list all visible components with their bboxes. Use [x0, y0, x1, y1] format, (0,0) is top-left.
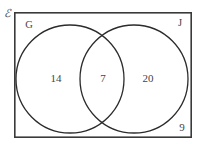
set-g-circle — [16, 25, 124, 133]
region-count-intersection: 7 — [100, 72, 106, 84]
region-count-outside: 9 — [179, 121, 185, 133]
region-count-g-only: 14 — [51, 72, 63, 84]
set-j-label: J — [178, 17, 182, 28]
region-count-j-only: 20 — [143, 72, 155, 84]
universal-set-symbol: ℰ — [4, 7, 12, 20]
venn-diagram-container: ℰ G J 14 7 20 9 — [0, 0, 200, 144]
set-g-label: G — [25, 19, 33, 30]
set-j-circle — [80, 25, 188, 133]
venn-diagram-svg: ℰ G J 14 7 20 9 — [0, 0, 200, 144]
